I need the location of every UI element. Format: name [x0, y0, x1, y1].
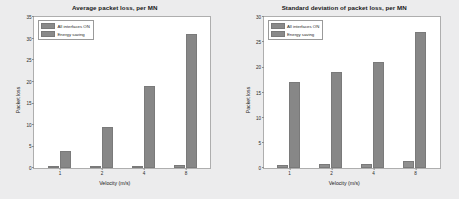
bar-group [361, 17, 384, 168]
y-axis-tick-mark [32, 81, 34, 82]
y-axis-tick-label: 5 [29, 144, 32, 149]
y-axis-tick-label: 10 [256, 115, 261, 120]
x-axis-tick-label: 2 [101, 171, 104, 176]
figure: Average packet loss, per MN All interfac… [0, 0, 459, 199]
y-axis-tick-label: 0 [258, 166, 261, 171]
legend-item-energy-saving: Energy saving [41, 31, 90, 37]
y-axis-tick-label: 25 [26, 58, 31, 63]
x-axis-tick-mark [331, 168, 332, 170]
bar [90, 166, 101, 168]
x-axis-tick-mark [60, 168, 61, 170]
chart-panel-stddev: Standard deviation of packet loss, per M… [230, 0, 459, 199]
x-axis-tick-label: 1 [288, 171, 291, 176]
bar-group [174, 17, 197, 168]
y-axis-tick-label: 0 [29, 166, 32, 171]
y-axis-tick-mark [262, 142, 264, 143]
bar [319, 164, 330, 168]
bar-group [132, 17, 155, 168]
y-axis-tick-mark [262, 92, 264, 93]
bar [361, 164, 372, 168]
y-axis-tick-mark [262, 167, 264, 168]
bar [102, 127, 113, 168]
x-axis-tick-label: 1 [59, 171, 62, 176]
x-axis-label: Velocity (m/s) [230, 180, 459, 186]
legend-swatch-icon [271, 31, 285, 37]
y-axis-label: Packet loss [245, 86, 251, 113]
y-axis-tick-label: 30 [26, 36, 31, 41]
bar [186, 34, 197, 168]
y-axis-tick-mark [32, 59, 34, 60]
bar [132, 166, 143, 168]
x-axis-tick-mark [186, 168, 187, 170]
y-axis-tick-label: 10 [26, 122, 31, 127]
y-axis-tick-mark [32, 167, 34, 168]
x-axis-tick-mark [102, 168, 103, 170]
plot-area: All interfaces ON Energy saving 05101520… [33, 16, 211, 169]
legend-item-all-interfaces-on: All interfaces ON [41, 23, 90, 29]
bar [403, 161, 414, 168]
bar [373, 62, 384, 168]
x-axis-tick-mark [144, 168, 145, 170]
y-axis-label: Packet loss [15, 86, 21, 113]
legend: All interfaces ON Energy saving [38, 20, 94, 40]
y-axis-tick-mark [262, 16, 264, 17]
y-axis-tick-mark [262, 117, 264, 118]
y-axis-tick-mark [32, 38, 34, 39]
y-axis-tick-label: 30 [256, 15, 261, 20]
bar [60, 151, 71, 168]
bar [48, 166, 59, 168]
y-axis-tick-label: 20 [26, 79, 31, 84]
legend-label: Energy saving [287, 32, 314, 37]
y-axis-tick-label: 35 [26, 15, 31, 20]
plot-area: All interfaces ON Energy saving 05101520… [263, 16, 441, 169]
legend-label: All interfaces ON [58, 24, 90, 29]
bar [277, 165, 288, 168]
y-axis-tick-mark [32, 103, 34, 104]
bar [289, 82, 300, 168]
y-axis-tick-label: 15 [26, 101, 31, 106]
legend-swatch-icon [41, 31, 55, 37]
legend-swatch-icon [271, 23, 285, 29]
y-axis-tick-mark [262, 41, 264, 42]
y-axis-tick-mark [32, 146, 34, 147]
x-axis-tick-label: 2 [330, 171, 333, 176]
legend-item-energy-saving: Energy saving [271, 31, 320, 37]
x-axis-tick-mark [373, 168, 374, 170]
legend-item-all-interfaces-on: All interfaces ON [271, 23, 320, 29]
chart-title: Average packet loss, per MN [0, 4, 230, 11]
x-axis-tick-label: 4 [372, 171, 375, 176]
y-axis-tick-mark [32, 124, 34, 125]
bar [174, 165, 185, 168]
bar-group [403, 17, 426, 168]
y-axis-tick-label: 20 [256, 65, 261, 70]
y-axis-tick-label: 15 [256, 90, 261, 95]
chart-panel-average: Average packet loss, per MN All interfac… [0, 0, 230, 199]
chart-title: Standard deviation of packet loss, per M… [230, 4, 459, 11]
x-axis-tick-label: 8 [414, 171, 417, 176]
legend-label: All interfaces ON [287, 24, 319, 29]
legend-label: Energy saving [58, 32, 85, 37]
x-axis-tick-label: 4 [143, 171, 146, 176]
bar [415, 32, 426, 168]
x-axis-label: Velocity (m/s) [0, 180, 230, 186]
x-axis-tick-label: 8 [185, 171, 188, 176]
legend: All interfaces ON Energy saving [268, 20, 324, 40]
y-axis-tick-label: 5 [258, 140, 261, 145]
legend-swatch-icon [41, 23, 55, 29]
y-axis-tick-label: 25 [256, 40, 261, 45]
y-axis-tick-mark [262, 67, 264, 68]
bar [144, 86, 155, 168]
y-axis-tick-mark [32, 16, 34, 17]
bar [331, 72, 342, 168]
x-axis-tick-mark [289, 168, 290, 170]
x-axis-tick-mark [415, 168, 416, 170]
